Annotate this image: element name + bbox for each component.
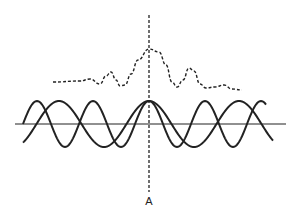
marker-label-a: A xyxy=(145,195,152,207)
envelope-dashed-curve xyxy=(53,49,242,90)
interference-diagram xyxy=(0,0,297,216)
